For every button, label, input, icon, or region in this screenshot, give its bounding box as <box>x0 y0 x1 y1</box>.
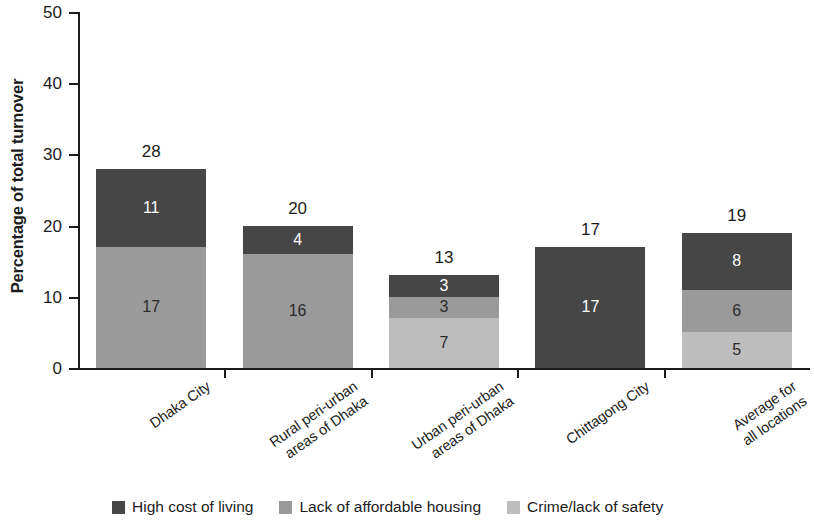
bar-segment[interactable]: 6 <box>682 290 792 333</box>
bar-total-label: 20 <box>243 199 353 219</box>
bar-segment-value-label: 3 <box>440 278 449 294</box>
x-axis-tick <box>371 369 373 378</box>
legend-item-label: High cost of living <box>132 498 253 516</box>
y-axis-tick: 0 <box>69 368 78 370</box>
bar-total-label: 28 <box>96 142 206 162</box>
bar-segment-value-label: 6 <box>732 303 741 319</box>
legend-item-label: Crime/lack of safety <box>527 498 663 516</box>
bar-segment[interactable]: 17 <box>535 247 645 368</box>
y-axis-tick: 20 <box>69 226 78 228</box>
bar-stack: 865 <box>682 233 792 368</box>
bar-segment-value-label: 16 <box>289 303 307 319</box>
bar-total-label: 13 <box>389 248 499 268</box>
legend-swatch-icon <box>112 501 125 514</box>
chart-legend: High cost of livingLack of affordable ho… <box>112 498 663 516</box>
x-axis-line <box>78 368 810 370</box>
bar-segment-value-label: 7 <box>440 335 449 351</box>
bar-segment[interactable]: 16 <box>243 254 353 368</box>
bar-segment-value-label: 5 <box>732 342 741 358</box>
legend-swatch-icon <box>279 501 292 514</box>
bar-segment[interactable]: 5 <box>682 332 792 368</box>
y-axis-tick: 40 <box>69 83 78 85</box>
bar-segment-value-label: 17 <box>142 299 160 315</box>
legend-item[interactable]: Lack of affordable housing <box>279 498 481 516</box>
legend-swatch-icon <box>507 501 520 514</box>
bar-segment[interactable]: 3 <box>389 297 499 318</box>
bar-segment-value-label: 17 <box>581 299 599 315</box>
x-axis-tick <box>224 369 226 378</box>
y-axis-title: Percentage of total turnover <box>0 0 34 372</box>
bar-stack: 337 <box>389 275 499 368</box>
y-axis-tick: 50 <box>69 12 78 14</box>
bar-total-label: 17 <box>535 220 645 240</box>
bar-total-label: 19 <box>682 206 792 226</box>
bar-stack: 17 <box>535 247 645 368</box>
y-axis-tick-label: 20 <box>43 217 62 237</box>
bar-segment-value-label: 8 <box>732 253 741 269</box>
y-axis-tick-label: 50 <box>43 3 62 23</box>
bar-segment[interactable]: 3 <box>389 275 499 296</box>
legend-item-label: Lack of affordable housing <box>299 498 481 516</box>
y-axis-tick: 30 <box>69 154 78 156</box>
x-axis-tick <box>517 369 519 378</box>
bar-segment[interactable]: 8 <box>682 233 792 290</box>
legend-item[interactable]: High cost of living <box>112 498 253 516</box>
bar-group[interactable]: 111728 <box>96 12 206 368</box>
bar-segment-value-label: 4 <box>293 232 302 248</box>
y-axis-line <box>78 12 80 369</box>
bar-group[interactable]: 33713 <box>389 12 499 368</box>
bar-segment-value-label: 3 <box>440 299 449 315</box>
y-axis-tick-label: 10 <box>43 288 62 308</box>
y-axis-tick-label: 40 <box>43 74 62 94</box>
bar-stack: 1117 <box>96 169 206 368</box>
y-axis-tick-label: 0 <box>53 359 62 379</box>
bar-segment[interactable]: 7 <box>389 318 499 368</box>
legend-item[interactable]: Crime/lack of safety <box>507 498 663 516</box>
bar-segment[interactable]: 11 <box>96 169 206 247</box>
bar-segment[interactable]: 4 <box>243 226 353 254</box>
y-axis-tick-label: 30 <box>43 145 62 165</box>
bar-group[interactable]: 86519 <box>682 12 792 368</box>
bar-group[interactable]: 1717 <box>535 12 645 368</box>
bar-stack: 416 <box>243 226 353 368</box>
y-axis-tick: 10 <box>69 297 78 299</box>
bar-group[interactable]: 41620 <box>243 12 353 368</box>
plot-area: 01020304050 1117284162033713171786519 <box>78 12 810 368</box>
bar-segment-value-label: 11 <box>143 200 160 216</box>
bar-segment[interactable]: 17 <box>96 247 206 368</box>
x-axis-tick <box>664 369 666 378</box>
